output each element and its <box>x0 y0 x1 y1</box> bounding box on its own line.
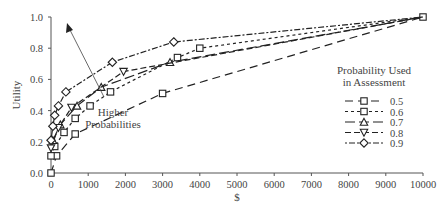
annotation-line2: Probabilities <box>85 118 141 130</box>
triangle-down-marker-icon <box>120 68 127 75</box>
diamond-marker-icon <box>360 139 368 147</box>
legend-label: 0.7 <box>390 117 403 128</box>
square-marker-icon <box>361 108 367 114</box>
x-tick-label: 8000 <box>338 179 359 190</box>
diamond-marker-icon <box>51 111 59 119</box>
square-marker-icon <box>107 89 113 95</box>
annotation-arrow-line <box>70 30 104 97</box>
square-marker-icon <box>361 98 367 104</box>
y-tick-label: 0.6 <box>30 74 43 85</box>
y-tick-label: 0.4 <box>30 106 44 117</box>
series-0.5 <box>48 14 426 176</box>
legend-item-0.9: 0.9 <box>345 138 403 149</box>
annotation-line1: Higher <box>98 106 129 118</box>
chart-canvas: 0.00.20.40.60.81.00100020003000400050006… <box>0 0 447 212</box>
legend-item-0.7: 0.7 <box>345 117 403 128</box>
x-tick-label: 3000 <box>152 179 173 190</box>
square-marker-icon <box>61 129 67 135</box>
arrow-head-icon <box>66 23 73 33</box>
series-layer <box>47 14 426 176</box>
x-tick-label: 2000 <box>115 179 136 190</box>
diamond-marker-icon <box>108 58 116 66</box>
legend-label: 0.8 <box>390 128 403 139</box>
diamond-marker-icon <box>62 88 70 96</box>
legend: Probability Used in Assessment 0.50.60.7… <box>337 64 412 149</box>
square-marker-icon <box>48 153 54 159</box>
square-marker-icon <box>87 103 93 109</box>
x-axis-label: $ <box>234 191 240 203</box>
square-marker-icon <box>159 90 165 96</box>
legend-item-0.5: 0.5 <box>345 96 403 107</box>
square-marker-icon <box>72 115 78 121</box>
x-tick-label: 7000 <box>301 179 322 190</box>
x-tick-label: 10000 <box>410 179 436 190</box>
y-tick-label: 0.8 <box>30 43 43 54</box>
diamond-marker-icon <box>54 102 62 110</box>
legend-title-line2: in Assessment <box>343 76 406 88</box>
square-marker-icon <box>197 45 203 51</box>
y-tick-label: 1.0 <box>30 12 43 23</box>
x-tick-label: 9000 <box>375 179 396 190</box>
legend-label: 0.5 <box>390 96 403 107</box>
x-tick-label: 1000 <box>78 179 99 190</box>
square-marker-icon <box>174 54 180 60</box>
legend-item-0.6: 0.6 <box>345 107 403 118</box>
x-tick-label: 0 <box>48 179 53 190</box>
x-tick-label: 5000 <box>227 179 248 190</box>
y-tick-label: 0.0 <box>30 168 43 179</box>
diamond-marker-icon <box>170 38 178 46</box>
x-tick-label: 4000 <box>189 179 210 190</box>
square-marker-icon <box>72 131 78 137</box>
y-tick-label: 0.2 <box>30 137 43 148</box>
y-axis-label: Utility <box>10 80 22 109</box>
diamond-marker-icon <box>49 122 57 130</box>
utility-chart: 0.00.20.40.60.81.00100020003000400050006… <box>0 0 447 212</box>
legend-label: 0.9 <box>390 138 403 149</box>
x-tick-label: 6000 <box>264 179 285 190</box>
legend-label: 0.6 <box>390 107 403 118</box>
legend-title-line1: Probability Used <box>337 64 412 76</box>
square-marker-icon <box>48 170 54 176</box>
legend-item-0.8: 0.8 <box>345 128 403 139</box>
